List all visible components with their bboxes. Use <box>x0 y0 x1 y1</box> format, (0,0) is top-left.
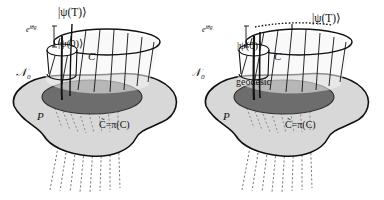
label-projection: C̃=π(C) <box>99 118 130 131</box>
label-N-subscript: 0 <box>27 73 31 81</box>
label-curve-C: C <box>274 50 282 62</box>
label-psi-0: |ψ(0)⟩ <box>58 38 83 50</box>
label-psi-0: |ψ(0)⟩ <box>237 40 262 52</box>
label-fiber-N0: 𝒩0 <box>16 66 31 81</box>
left-panel-diagram: |ψ(T)⟩ |ψ(0)⟩ eiθg C 𝒩0 P C̃=π(C) <box>0 0 192 200</box>
label-phase-factor: eiθg <box>202 24 213 34</box>
right-panel-diagram: |ψ(T)⟩ |ψ(0)⟩ eiθg C geodesic 𝒩0 P C̃=π(… <box>192 0 384 200</box>
label-base-P: P <box>36 110 44 122</box>
figure-container: |ψ(T)⟩ |ψ(0)⟩ eiθg C 𝒩0 P C̃=π(C) <box>0 0 384 200</box>
label-fiber-N0: 𝒩0 <box>192 66 205 81</box>
label-phase-exponent: iθg <box>30 24 37 30</box>
label-psi-T: |ψ(T)⟩ <box>312 12 341 25</box>
label-phase-exponent: iθg <box>206 24 213 30</box>
label-geodesic: geodesic <box>236 76 272 87</box>
label-projection: C̃=π(C) <box>285 118 316 131</box>
label-psi-T: |ψ(T)⟩ <box>58 6 87 19</box>
label-curve-C: C <box>88 50 96 62</box>
label-N-subscript: 0 <box>201 73 205 81</box>
label-phase-factor: eiθg <box>26 24 37 34</box>
label-base-P: P <box>222 110 230 122</box>
